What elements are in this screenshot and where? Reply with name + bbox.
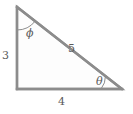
horizontal-leg-label: 4: [58, 96, 65, 107]
angle-theta-label: θ: [96, 76, 103, 87]
triangle-graphic: [0, 0, 133, 114]
right-triangle-figure: 3 4 5 ϕ θ: [0, 0, 133, 114]
vertical-leg-label: 3: [2, 50, 9, 61]
hypotenuse-label: 5: [68, 43, 75, 54]
angle-phi-label: ϕ: [26, 28, 34, 39]
